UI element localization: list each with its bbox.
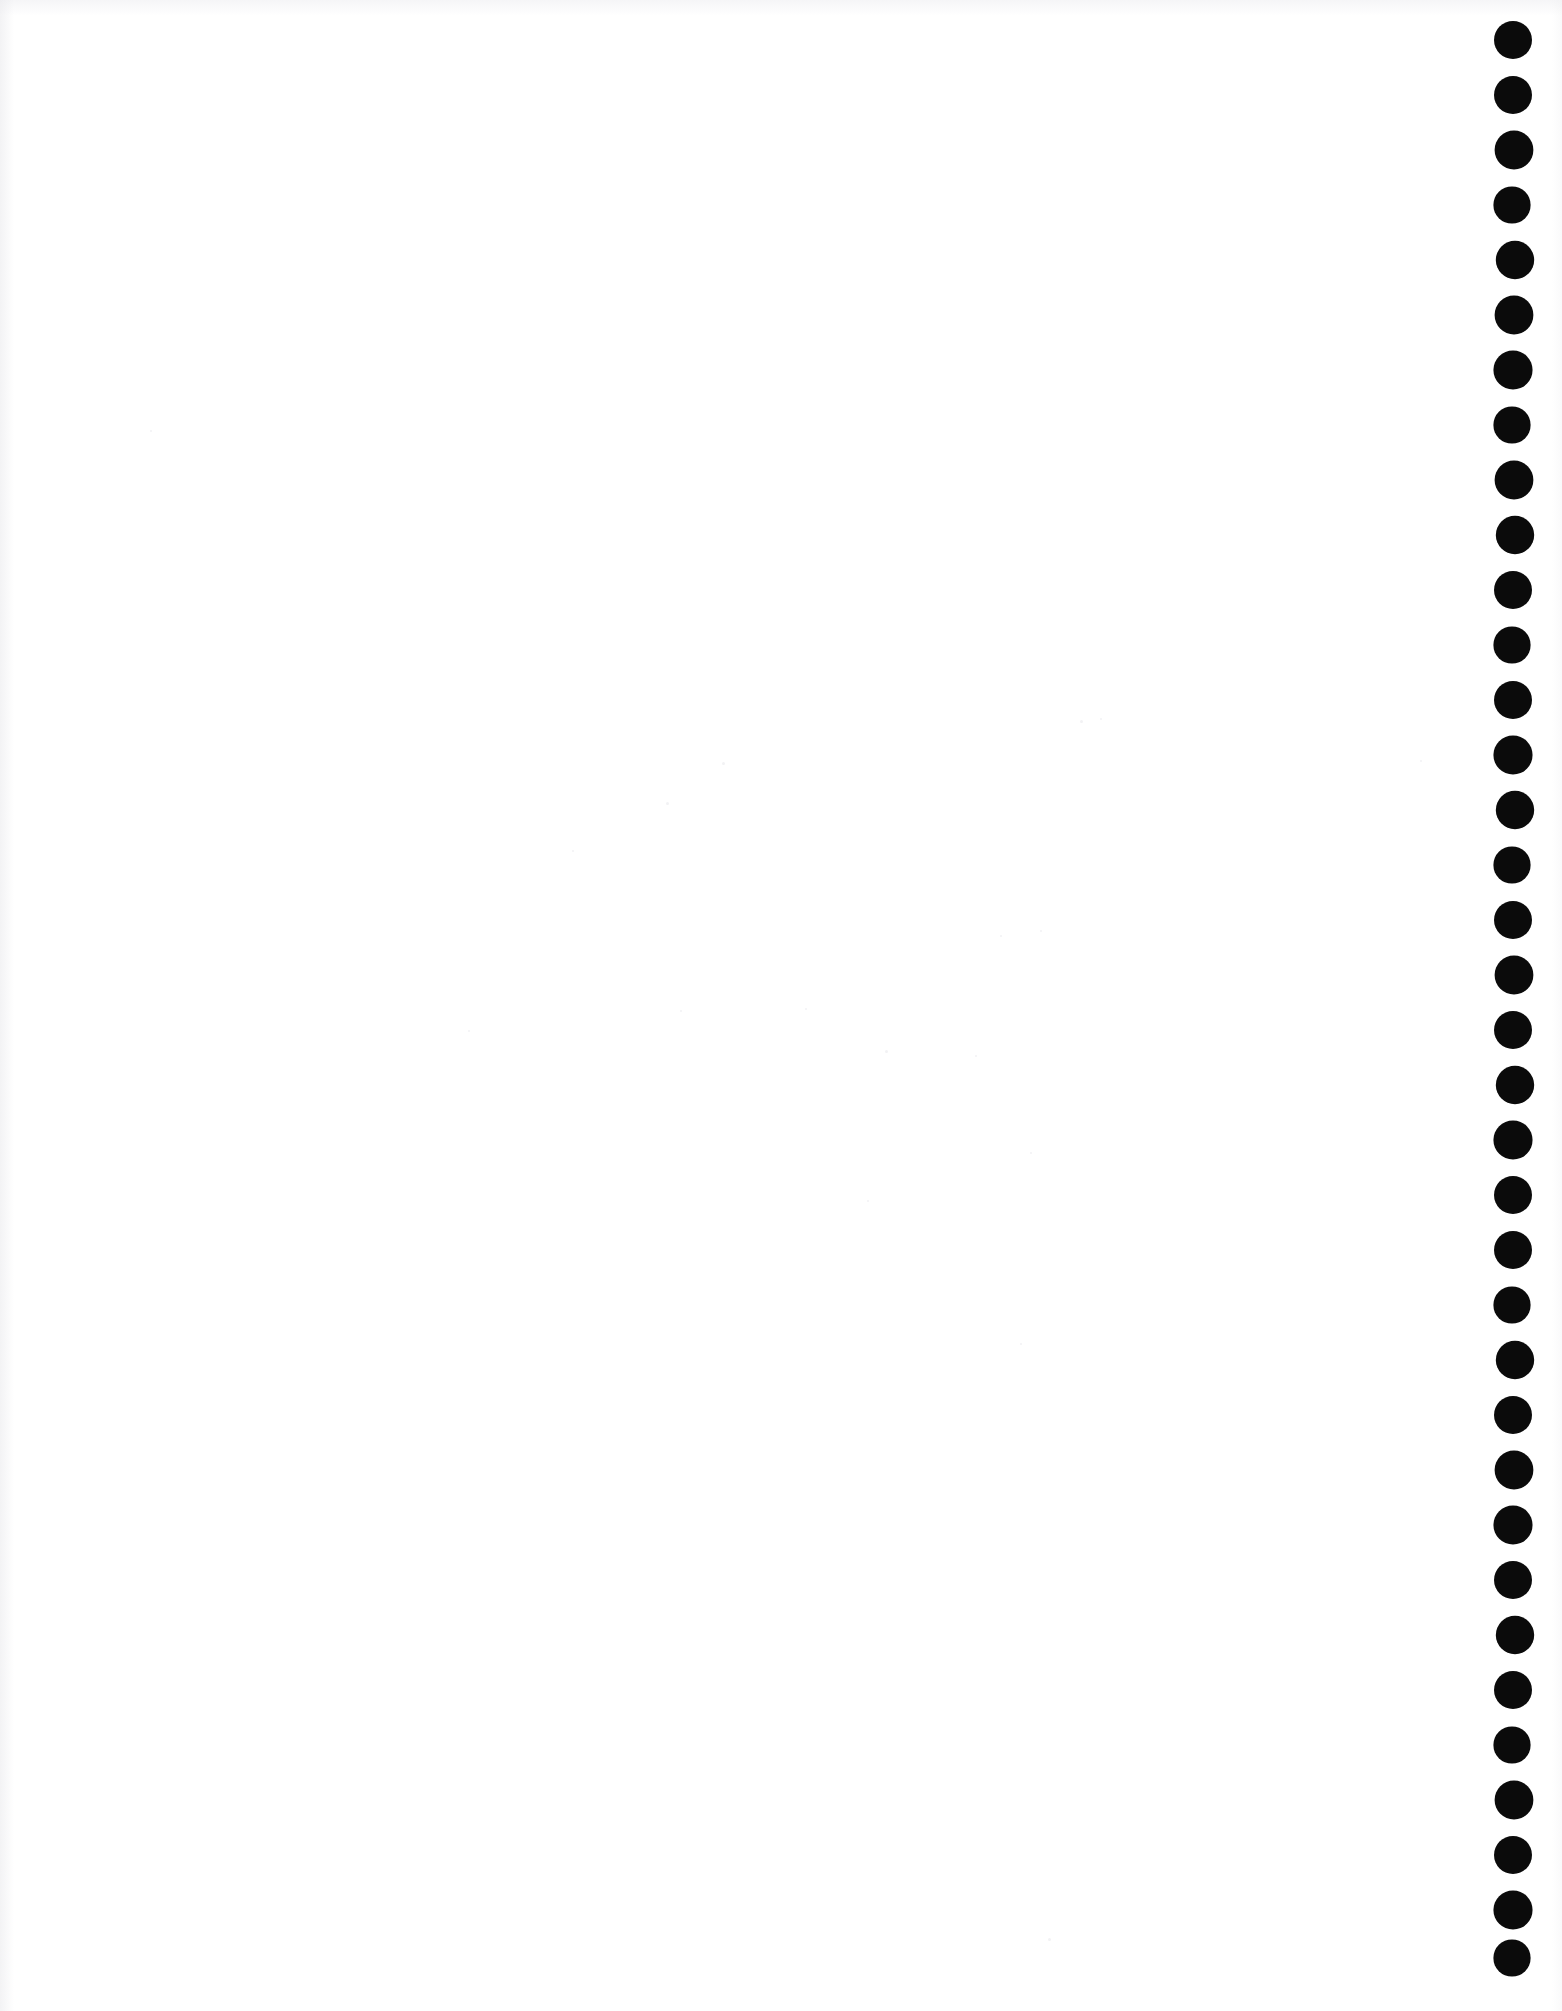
filled-circle-icon: [1493, 1286, 1530, 1323]
filled-circle-icon: [1493, 186, 1530, 223]
filled-circle-icon: [1495, 1451, 1534, 1490]
filled-circle-icon: [1493, 626, 1530, 663]
filled-circle-icon: [1494, 1176, 1532, 1214]
scanned-page: [0, 0, 1562, 2011]
filled-circle-icon: [1494, 681, 1532, 719]
filled-circle-icon: [1494, 901, 1532, 939]
filled-circle-icon: [1495, 131, 1534, 170]
filled-circle-icon: [1496, 1616, 1534, 1654]
filled-circle-icon: [1493, 350, 1532, 389]
filled-circle-icon: [1493, 1505, 1532, 1544]
filled-circle-icon: [1494, 21, 1532, 59]
filled-circle-icon: [1493, 1726, 1530, 1763]
filled-circle-icon: [1495, 296, 1534, 335]
filled-circle-icon: [1493, 1939, 1530, 1976]
filled-circle-icon: [1493, 1890, 1532, 1929]
filled-circle-icon: [1496, 791, 1534, 829]
filled-circle-icon: [1495, 461, 1534, 500]
filled-circle-icon: [1496, 241, 1534, 279]
filled-circle-icon: [1494, 76, 1532, 114]
binding-hole-column: [1494, 0, 1546, 2011]
filled-circle-icon: [1494, 1561, 1532, 1599]
filled-circle-icon: [1494, 571, 1532, 609]
filled-circle-icon: [1494, 1011, 1532, 1049]
filled-circle-icon: [1493, 406, 1530, 443]
page-content-area: [0, 0, 1470, 2011]
filled-circle-icon: [1496, 1066, 1534, 1104]
filled-circle-icon: [1495, 1781, 1534, 1820]
filled-circle-icon: [1495, 956, 1534, 995]
filled-circle-icon: [1496, 516, 1534, 554]
filled-circle-icon: [1493, 846, 1530, 883]
filled-circle-icon: [1496, 1341, 1534, 1379]
filled-circle-icon: [1494, 1396, 1532, 1434]
filled-circle-icon: [1494, 1231, 1532, 1269]
filled-circle-icon: [1494, 1671, 1532, 1709]
filled-circle-icon: [1493, 735, 1532, 774]
filled-circle-icon: [1493, 1120, 1532, 1159]
filled-circle-icon: [1494, 1836, 1532, 1874]
